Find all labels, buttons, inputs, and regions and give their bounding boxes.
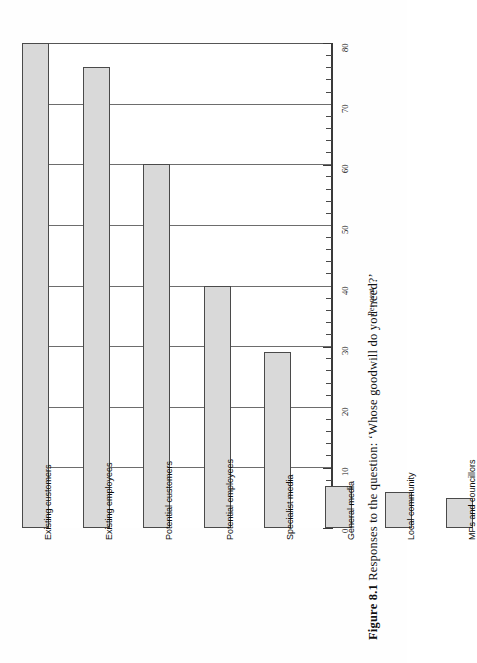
tick-label: 80 bbox=[340, 44, 350, 53]
tick-minor bbox=[326, 55, 332, 56]
tick-minor bbox=[326, 419, 332, 420]
tick-minor bbox=[326, 152, 332, 153]
tick-minor bbox=[326, 298, 332, 299]
figure-caption-text: Responses to the question: ‘Whose goodwi… bbox=[366, 273, 380, 581]
figure-number: Figure 8.1 bbox=[366, 584, 380, 640]
tick-label: 50 bbox=[340, 225, 350, 234]
tick-minor bbox=[326, 249, 332, 250]
tick-minor bbox=[326, 176, 332, 177]
tick-label: 60 bbox=[340, 165, 350, 174]
gridline bbox=[22, 286, 331, 287]
tick-minor bbox=[326, 79, 332, 80]
tick-minor bbox=[326, 455, 332, 456]
tick-label: 20 bbox=[340, 407, 350, 416]
tick-minor bbox=[326, 189, 332, 190]
tick-minor bbox=[326, 395, 332, 396]
tick-minor bbox=[326, 128, 332, 129]
gridline bbox=[22, 225, 331, 226]
tick-minor bbox=[326, 201, 332, 202]
tick-minor bbox=[326, 213, 332, 214]
tick-minor bbox=[326, 370, 332, 371]
gridline bbox=[22, 164, 331, 165]
tick-label: 30 bbox=[340, 347, 350, 356]
tick-minor bbox=[326, 237, 332, 238]
bar bbox=[83, 67, 110, 528]
category-label: Existing customers bbox=[43, 464, 53, 540]
tick-minor bbox=[326, 67, 332, 68]
tick-minor bbox=[326, 431, 332, 432]
category-label: Specialist media bbox=[285, 474, 295, 540]
tick-label: 70 bbox=[340, 104, 350, 113]
category-label: Potential customers bbox=[164, 461, 174, 540]
gridline bbox=[22, 346, 331, 347]
category-label: Local community bbox=[406, 472, 416, 540]
tick-minor bbox=[326, 443, 332, 444]
tick-minor bbox=[326, 358, 332, 359]
bar bbox=[22, 43, 49, 528]
tick-minor bbox=[326, 322, 332, 323]
tick-minor bbox=[326, 261, 332, 262]
figure-chart: 01020304050607080 Existing customersExis… bbox=[0, 0, 355, 663]
tick-minor bbox=[326, 273, 332, 274]
tick-minor bbox=[326, 116, 332, 117]
category-label: General media bbox=[346, 481, 356, 540]
tick-major bbox=[323, 43, 332, 44]
tick-minor bbox=[326, 383, 332, 384]
figure-caption: Figure 8.1 Responses to the question: ‘W… bbox=[366, 273, 381, 640]
tick-minor bbox=[326, 92, 332, 93]
tick-major bbox=[323, 528, 332, 529]
tick-label: 10 bbox=[340, 468, 350, 477]
tick-minor bbox=[326, 334, 332, 335]
tick-label: 40 bbox=[340, 286, 350, 295]
tick-minor bbox=[326, 140, 332, 141]
tick-minor bbox=[326, 480, 332, 481]
category-label: Potential employees bbox=[225, 459, 235, 540]
category-label: Existing employees bbox=[104, 462, 114, 540]
category-label: MPs and councillors bbox=[467, 459, 477, 540]
tick-minor bbox=[326, 310, 332, 311]
gridline bbox=[22, 104, 331, 105]
